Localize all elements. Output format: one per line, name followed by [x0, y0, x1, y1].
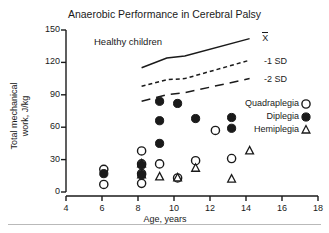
legend-marker-quadraplegia	[302, 100, 310, 108]
data-point-diplegia	[156, 139, 164, 147]
minus-1sd-curve-label: -1 SD	[264, 56, 287, 66]
y-tick-label: 60	[32, 121, 60, 131]
data-point-diplegia	[138, 171, 146, 179]
data-point-quadraplegia	[228, 154, 236, 162]
data-point-hemiplegia	[192, 164, 200, 171]
data-point-quadraplegia	[138, 179, 146, 187]
data-point-diplegia	[156, 117, 164, 125]
data-point-diplegia	[138, 161, 146, 169]
data-point-quadraplegia	[100, 180, 108, 188]
mean-curve-label: X	[262, 33, 268, 43]
footer-rule	[8, 224, 321, 225]
data-point-hemiplegia	[246, 147, 254, 154]
legend-marker-diplegia	[302, 113, 310, 121]
data-point-hemiplegia	[156, 172, 164, 179]
data-point-hemiplegia	[228, 175, 236, 182]
data-point-quadraplegia	[156, 160, 164, 168]
x-bar-symbol: X	[262, 33, 268, 43]
chart-figure: Anaerobic Performance in Cerebral Palsy …	[0, 0, 329, 233]
reference-curves	[142, 39, 250, 102]
x-tick-label: 14	[234, 203, 258, 213]
y-tick-label: 90	[32, 89, 60, 99]
y-tick-label: 150	[32, 24, 60, 34]
data-point-quadraplegia	[138, 147, 146, 155]
data-point-diplegia	[100, 170, 108, 178]
legend-marker-hemiplegia	[302, 126, 310, 133]
x-tick-label: 12	[198, 203, 222, 213]
legend-markers	[302, 100, 310, 133]
healthy-children-annotation: Healthy children	[94, 36, 162, 47]
minus-2sd-curve-label: -2 SD	[264, 74, 287, 84]
legend-item-quadraplegia: Quadraplegia	[180, 98, 299, 108]
x-tick-label: 8	[126, 203, 150, 213]
x-axis-ticks	[66, 196, 318, 201]
y-tick-label: 120	[32, 56, 60, 66]
y-axis-ticks	[61, 30, 66, 192]
data-point-diplegia	[156, 97, 164, 105]
x-tick-label: 4	[54, 203, 78, 213]
legend-item-diplegia: Diplegia	[180, 111, 299, 121]
legend-item-hemiplegia: Hemiplegia	[180, 124, 299, 134]
y-tick-label: 30	[32, 154, 60, 164]
x-tick-label: 10	[162, 203, 186, 213]
x-tick-label: 18	[306, 203, 329, 213]
x-tick-label: 16	[270, 203, 294, 213]
y-tick-label: 0	[32, 186, 60, 196]
x-tick-label: 6	[90, 203, 114, 213]
